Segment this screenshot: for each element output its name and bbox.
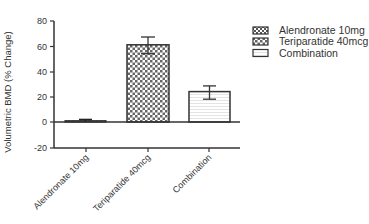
y-tick-label: 20 [37, 92, 47, 102]
legend-item-combination: Combination [253, 47, 338, 59]
legend: Alendronate 10mg Teriparatide 40mcg Comb… [253, 24, 368, 59]
y-tick-label: 40 [37, 67, 47, 77]
legend-label: Combination [279, 47, 338, 59]
legend-swatch-coarse-checker-icon [253, 38, 268, 45]
y-axis: 80 60 40 20 0 -20 [34, 16, 54, 153]
y-tick-label: 0 [42, 117, 47, 127]
y-axis-title: Volumetric BMD (% Change) [2, 31, 13, 152]
bmd-bar-chart: Volumetric BMD (% Change) 80 60 40 20 0 … [0, 0, 369, 224]
legend-swatch-fine-checker-icon [253, 27, 268, 34]
legend-swatch-lines-icon [253, 50, 268, 57]
legend-item-teriparatide: Teriparatide 40mcg [253, 35, 368, 47]
x-axis: Alendronate 10mg Teriparatide 40mcg Comb… [31, 148, 240, 214]
bars [65, 45, 230, 122]
x-tick-label: Combination [171, 152, 214, 195]
legend-label: Teriparatide 40mcg [279, 35, 368, 47]
y-tick-label: 60 [37, 42, 47, 52]
x-tick-label: Teriparatide 40mcg [91, 152, 152, 213]
y-tick-label: 80 [37, 16, 47, 26]
bar-teriparatide [127, 45, 169, 122]
y-tick-label: -20 [34, 143, 47, 153]
x-tick-label: Alendronate 10mg [31, 152, 90, 211]
